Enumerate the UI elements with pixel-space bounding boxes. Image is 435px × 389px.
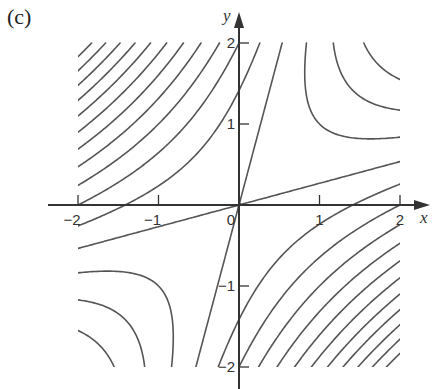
contour-plot: −2−1012−2−112xy — [0, 0, 435, 389]
x-tick-label: 2 — [396, 211, 404, 228]
x-tick-label: −2 — [63, 211, 80, 228]
axes: −2−1012−2−112xy — [48, 6, 430, 389]
y-axis-arrow-icon — [234, 12, 244, 28]
y-tick-label: −2 — [218, 358, 235, 375]
x-tick-label: 0 — [227, 211, 235, 228]
y-axis-label: y — [221, 6, 231, 25]
x-tick-label: 1 — [315, 211, 323, 228]
x-tick-label: −1 — [144, 211, 161, 228]
y-tick-label: 2 — [227, 34, 235, 51]
y-tick-label: −1 — [218, 277, 235, 294]
y-tick-label: 1 — [227, 115, 235, 132]
x-axis-label: x — [419, 208, 428, 227]
